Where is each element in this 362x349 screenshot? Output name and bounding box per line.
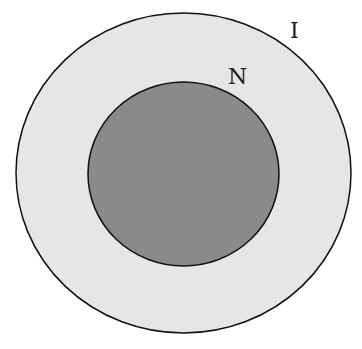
nested-set-diagram: I N (0, 0, 362, 349)
inner-set-label: N (228, 64, 247, 89)
outer-set-label: I (290, 18, 299, 43)
inner-set-n (88, 82, 279, 266)
